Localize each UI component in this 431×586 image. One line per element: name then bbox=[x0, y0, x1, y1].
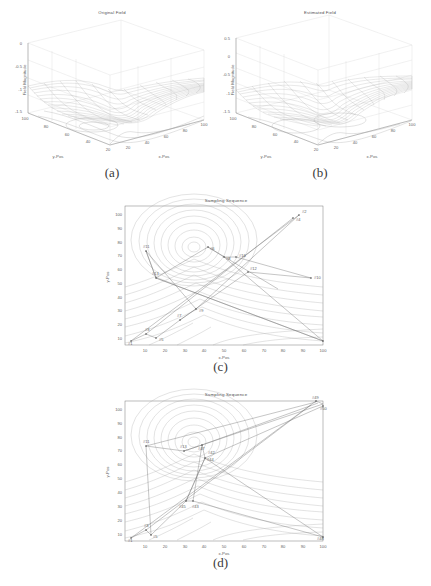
svg-text:100: 100 bbox=[409, 122, 417, 127]
panel-a-y-ticks: 100 80 60 40 20 bbox=[22, 116, 111, 152]
svg-text:-1.5: -1.5 bbox=[15, 109, 23, 114]
svg-text:80: 80 bbox=[281, 544, 286, 549]
panel-b-y-ticks: 100 80 60 40 20 bbox=[230, 116, 319, 152]
svg-text:60: 60 bbox=[242, 348, 247, 353]
panel-a-surface-plot: 0 -0.5 -1 -1.5 100 80 60 40 20 20 40 60 … bbox=[14, 8, 210, 163]
svg-text:80: 80 bbox=[391, 128, 396, 133]
panel-b-surface-plot: 0.5 0 -0.5 -1 -1.5 100 80 60 40 20 20 40… bbox=[222, 8, 418, 163]
svg-text:20: 20 bbox=[106, 147, 111, 152]
svg-text:#48: #48 bbox=[317, 536, 324, 541]
svg-text:40: 40 bbox=[117, 295, 122, 300]
svg-text:#3: #3 bbox=[144, 523, 149, 528]
svg-text:#45: #45 bbox=[179, 504, 186, 509]
svg-text:80: 80 bbox=[44, 124, 49, 129]
svg-text:#7: #7 bbox=[177, 313, 182, 318]
panel-c-ylabel: y-Pos bbox=[105, 272, 110, 283]
svg-text:#42: #42 bbox=[208, 450, 215, 455]
panel-d-sampling-sequence: Sampling Sequence bbox=[93, 388, 348, 568]
svg-text:80: 80 bbox=[117, 240, 122, 245]
svg-text:50: 50 bbox=[222, 544, 227, 549]
panel-d-title: Sampling Sequence bbox=[205, 392, 248, 397]
svg-text:90: 90 bbox=[301, 544, 306, 549]
svg-text:#11: #11 bbox=[143, 439, 150, 444]
svg-text:60: 60 bbox=[117, 462, 122, 467]
panel-c-contour-plot: Sampling Sequence bbox=[93, 195, 348, 361]
panel-c-sampling-sequence: Sampling Sequence bbox=[93, 195, 348, 370]
svg-text:#5: #5 bbox=[159, 337, 164, 342]
svg-text:40: 40 bbox=[294, 139, 299, 144]
svg-text:40: 40 bbox=[353, 140, 358, 145]
svg-text:90: 90 bbox=[117, 421, 122, 426]
svg-text:40: 40 bbox=[202, 544, 207, 549]
svg-text:80: 80 bbox=[281, 348, 286, 353]
svg-text:#12: #12 bbox=[250, 266, 257, 271]
panel-b-caption: (b) bbox=[222, 165, 418, 181]
svg-text:40: 40 bbox=[145, 140, 150, 145]
svg-text:60: 60 bbox=[117, 267, 122, 272]
svg-text:0.5: 0.5 bbox=[224, 36, 230, 41]
svg-text:10: 10 bbox=[117, 532, 122, 537]
svg-text:30: 30 bbox=[183, 544, 188, 549]
svg-text:#44: #44 bbox=[207, 457, 214, 462]
panel-d-ylabel: y-Pos bbox=[105, 467, 110, 478]
panel-a-caption: (a) bbox=[14, 165, 210, 181]
panel-d-y-ticks: 10 20 30 40 50 60 70 80 90 100 bbox=[115, 407, 123, 537]
panel-c-caption: (c) bbox=[93, 359, 348, 375]
svg-text:60: 60 bbox=[65, 132, 70, 137]
panel-d-caption: (d) bbox=[93, 555, 348, 571]
panel-a-title: Original Field bbox=[14, 10, 210, 15]
svg-text:60: 60 bbox=[164, 134, 169, 139]
svg-text:#13: #13 bbox=[152, 271, 159, 276]
svg-text:20: 20 bbox=[334, 145, 339, 150]
svg-text:100: 100 bbox=[115, 407, 123, 412]
panel-b-xlabel: x-Pos bbox=[367, 154, 378, 159]
svg-text:#50: #50 bbox=[320, 406, 327, 411]
panel-a-zlabel: Field Magnitude bbox=[22, 64, 27, 95]
svg-text:#8: #8 bbox=[226, 256, 231, 261]
panel-b-ylabel: y-Pos bbox=[261, 154, 272, 159]
svg-text:#10: #10 bbox=[314, 275, 321, 280]
svg-text:-1.5: -1.5 bbox=[223, 109, 231, 114]
panel-d-x-ticks: 10 20 30 40 50 60 70 80 90 100 bbox=[143, 544, 327, 549]
svg-text:60: 60 bbox=[242, 544, 247, 549]
panel-a-xlabel: x-Pos bbox=[159, 154, 170, 159]
svg-text:60: 60 bbox=[273, 132, 278, 137]
svg-text:40: 40 bbox=[86, 139, 91, 144]
svg-text:100: 100 bbox=[320, 348, 328, 353]
panel-b-estimated-field: Estimated Field bbox=[222, 8, 418, 163]
svg-text:20: 20 bbox=[126, 145, 131, 150]
svg-text:80: 80 bbox=[252, 124, 257, 129]
panel-b-zlabel: Field Magnitude bbox=[230, 64, 235, 95]
svg-text:#3: #3 bbox=[145, 327, 150, 332]
panel-c-sampling-path bbox=[131, 215, 323, 341]
svg-text:#43: #43 bbox=[192, 504, 199, 509]
svg-text:#5: #5 bbox=[153, 534, 158, 539]
svg-text:#47: #47 bbox=[198, 446, 205, 451]
panel-d-contour-plot: Sampling Sequence bbox=[93, 388, 348, 558]
svg-text:100: 100 bbox=[201, 122, 209, 127]
svg-text:80: 80 bbox=[117, 435, 122, 440]
svg-text:100: 100 bbox=[115, 212, 123, 217]
svg-text:90: 90 bbox=[117, 226, 122, 231]
svg-text:40: 40 bbox=[117, 490, 122, 495]
svg-text:10: 10 bbox=[143, 348, 148, 353]
svg-text:0: 0 bbox=[228, 54, 231, 59]
panel-b-title: Estimated Field bbox=[222, 10, 418, 15]
svg-text:100: 100 bbox=[320, 544, 328, 549]
svg-text:#49: #49 bbox=[312, 395, 319, 400]
svg-text:#4: #4 bbox=[296, 217, 301, 222]
svg-text:20: 20 bbox=[163, 544, 168, 549]
svg-text:#13: #13 bbox=[180, 444, 187, 449]
svg-text:70: 70 bbox=[262, 348, 267, 353]
svg-text:#11: #11 bbox=[143, 244, 150, 249]
svg-text:#2: #2 bbox=[302, 209, 307, 214]
panel-c-x-ticks: 10 20 30 40 50 60 70 80 90 100 bbox=[143, 348, 327, 353]
svg-text:50: 50 bbox=[117, 476, 122, 481]
panel-a-axes-box bbox=[28, 20, 204, 145]
svg-text:90: 90 bbox=[301, 348, 306, 353]
svg-text:#1: #1 bbox=[128, 341, 133, 346]
svg-text:100: 100 bbox=[230, 116, 238, 121]
svg-text:20: 20 bbox=[314, 147, 319, 152]
panel-c-y-ticks: 10 20 30 40 50 60 70 80 90 100 bbox=[115, 212, 123, 341]
svg-text:20: 20 bbox=[117, 322, 122, 327]
